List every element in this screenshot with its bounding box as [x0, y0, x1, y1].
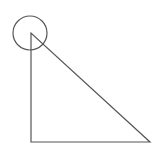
circle-shape: [13, 16, 47, 50]
diagram-canvas: [0, 0, 166, 158]
right-triangle-shape: [31, 33, 150, 142]
